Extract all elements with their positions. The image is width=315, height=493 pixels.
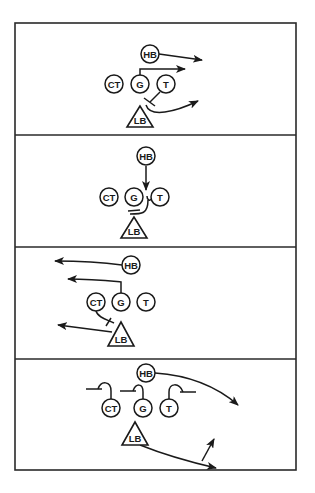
svg-text:T: T [166,403,172,414]
svg-text:HB: HB [143,49,157,60]
player-g: G [125,188,143,206]
g-hook-block [133,385,143,399]
panel-3: HB CT G T LB [55,256,155,346]
play-diagram: HB CT G T LB HB CT [0,0,315,493]
player-t: T [160,399,178,417]
player-t: T [157,75,175,93]
player-g: G [112,293,130,311]
player-hb: HB [137,147,155,165]
svg-text:LB: LB [129,433,142,444]
svg-text:CT: CT [108,79,121,90]
player-ct: CT [87,293,105,311]
svg-text:T: T [163,79,169,90]
g-pull-arrow [68,279,121,294]
svg-text:G: G [130,192,137,203]
ct-block-line [96,311,114,323]
player-g: G [134,399,152,417]
svg-text:HB: HB [124,260,138,271]
hb-route-arrow [55,261,122,265]
svg-text:HB: HB [139,151,153,162]
player-hb: HB [122,256,140,274]
svg-text:LB: LB [134,115,147,126]
player-lb: LB [121,217,147,238]
player-ct: CT [105,75,123,93]
player-ct: CT [100,188,118,206]
svg-text:LB: LB [128,226,141,237]
player-lb: LB [108,322,134,346]
player-hb: HB [137,364,155,382]
svg-text:LB: LB [115,334,128,345]
lb-route-arrow [146,101,198,112]
lb-branch-arrow [202,439,214,461]
panel-2: HB CT G T LB [100,147,169,238]
player-t: T [151,188,169,206]
svg-text:CT: CT [90,297,103,308]
svg-text:CT: CT [103,192,116,203]
svg-text:T: T [157,192,163,203]
svg-text:G: G [136,79,143,90]
player-lb: LB [122,422,148,445]
lb-route-arrow [58,325,112,332]
player-ct: CT [102,399,120,417]
svg-text:G: G [139,403,146,414]
block-tick [128,210,140,211]
player-g: G [131,75,149,93]
svg-text:T: T [143,297,149,308]
svg-text:CT: CT [105,403,118,414]
ct-hook-block [98,383,111,399]
svg-text:HB: HB [139,368,153,379]
panel-1: HB CT G T LB [105,45,202,127]
svg-text:G: G [117,297,124,308]
panel-4: HB CT G T LB [86,364,238,468]
t-block-line [150,92,160,102]
player-hb: HB [141,45,159,63]
player-t: T [137,293,155,311]
hb-route-arrow [159,54,202,60]
